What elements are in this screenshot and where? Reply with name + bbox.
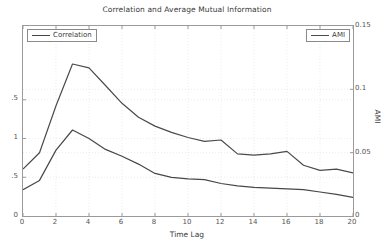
x-tick-label: 0 [20, 219, 24, 226]
legend-ami-label: AMI [332, 32, 345, 39]
left-axis-tick-labels-clipped: 00.511.5 [11, 25, 19, 221]
figure: Correlation and Average Mutual Informati… [0, 0, 391, 246]
x-tick-label: 6 [119, 219, 123, 226]
x-axis-label: Time Lag [22, 230, 352, 239]
left-y-tick-label: 1 [11, 134, 18, 141]
plot-area: Correlation AMI [22, 25, 354, 217]
x-tick-label: 4 [86, 219, 90, 226]
x-tick-label: 12 [216, 219, 225, 226]
x-tick-label: 20 [348, 219, 357, 226]
chart-title: Correlation and Average Mutual Informati… [22, 5, 352, 14]
right-y-tick-label: 0.1 [355, 85, 366, 92]
right-y-tick-label: 0.15 [355, 22, 371, 29]
plot-canvas [23, 26, 353, 216]
x-tick-label: 8 [152, 219, 156, 226]
left-y-tick-label: 0 [11, 212, 18, 219]
right-y-tick-label: 0.05 [355, 148, 371, 155]
x-tick-label: 14 [249, 219, 258, 226]
x-tick-label: 16 [282, 219, 291, 226]
x-tick-label: 18 [315, 219, 324, 226]
legend-correlation-label: Correlation [53, 32, 92, 39]
x-tick-label: 2 [53, 219, 57, 226]
legend-ami: AMI [306, 29, 350, 42]
left-y-tick-label: 0.5 [11, 173, 18, 180]
left-y-tick-label: 1.5 [11, 95, 18, 102]
x-tick-label: 10 [183, 219, 192, 226]
right-y-tick-label: 0 [355, 212, 359, 219]
legend-correlation: Correlation [27, 29, 97, 42]
right-axis-label: AMI [373, 110, 382, 124]
correlation-line-sample [32, 35, 50, 36]
ami-line-sample [311, 35, 329, 36]
